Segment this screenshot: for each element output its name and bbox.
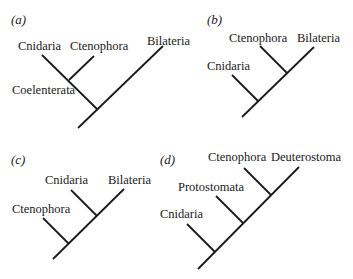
taxon-cnidaria: Cnidaria xyxy=(45,173,88,187)
branch-trunk xyxy=(53,189,124,259)
cladogram-svg: (a) Cnidaria Ctenophora Bilateria Coelen… xyxy=(0,0,353,279)
branch-cnidaria xyxy=(187,224,215,252)
branch-cnidaria xyxy=(232,75,258,101)
cladogram-figure: (a) Cnidaria Ctenophora Bilateria Coelen… xyxy=(0,0,353,279)
taxon-cnidaria: Cnidaria xyxy=(207,59,250,73)
taxon-bilateria: Bilateria xyxy=(147,34,190,48)
taxon-protostomata: Protostomata xyxy=(178,180,244,194)
panel-c-label: (c) xyxy=(11,152,25,167)
clade-coelenterata: Coelenterata xyxy=(12,83,76,97)
branch-cnidaria xyxy=(71,190,97,216)
taxon-ctenophora: Ctenophora xyxy=(70,39,129,53)
panel-d-label: (d) xyxy=(160,152,175,167)
panel-c: (c) Cnidaria Bilateria Ctenophora xyxy=(11,152,151,259)
taxon-bilateria: Bilateria xyxy=(297,31,340,45)
panel-d: (d) Ctenophora Deuterostoma Protostomata… xyxy=(160,150,342,269)
branch-ctenophora xyxy=(43,218,69,244)
panel-a-label: (a) xyxy=(11,12,26,27)
taxon-cnidaria: Cnidaria xyxy=(18,39,61,53)
branch-ctenophora xyxy=(244,168,271,195)
taxon-bilateria: Bilateria xyxy=(108,173,151,187)
taxon-ctenophora: Ctenophora xyxy=(208,150,267,164)
taxon-cnidaria: Cnidaria xyxy=(160,207,203,221)
panel-b: (b) Ctenophora Bilateria Cnidaria xyxy=(207,12,340,117)
panel-a: (a) Cnidaria Ctenophora Bilateria Coelen… xyxy=(11,12,190,128)
branch-ctenophora xyxy=(69,56,94,80)
branch-protostomata xyxy=(216,196,243,223)
panel-b-label: (b) xyxy=(207,12,222,27)
taxon-ctenophora: Ctenophora xyxy=(229,31,288,45)
branch-trunk xyxy=(242,47,314,117)
branch-ctenophora xyxy=(260,46,287,73)
taxon-ctenophora: Ctenophora xyxy=(12,202,71,216)
taxon-deuterostoma: Deuterostoma xyxy=(271,150,342,164)
